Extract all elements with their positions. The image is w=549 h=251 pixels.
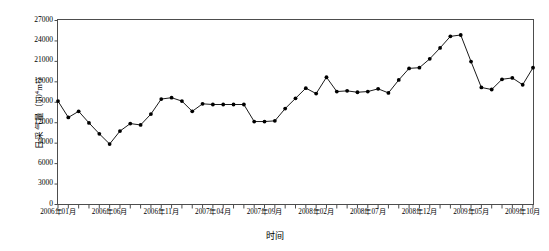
y-axis-tick-label: 18000: [19, 77, 53, 85]
data-point-marker: [407, 66, 411, 70]
data-point-marker: [345, 89, 349, 93]
data-point-marker: [500, 77, 504, 81]
y-axis-tick-label: 12000: [19, 118, 53, 126]
x-axis-tick-labels: 2006年01月2006年06月2006年11月2007年04月2007年09月…: [0, 208, 549, 224]
y-axis-tick-label: 21000: [19, 56, 53, 64]
data-point-marker: [149, 112, 153, 116]
data-point-marker: [397, 78, 401, 82]
data-point-marker: [479, 86, 483, 90]
y-axis-tick-label: 27000: [19, 16, 53, 24]
data-point-marker: [56, 99, 60, 103]
data-point-marker: [263, 120, 267, 124]
plot-frame: [58, 20, 534, 205]
data-point-marker: [180, 99, 184, 103]
data-point-marker: [139, 123, 143, 127]
data-point-marker: [128, 122, 132, 126]
data-point-marker: [438, 46, 442, 50]
x-axis-tick-label: 2009年10月: [488, 208, 549, 217]
data-point-marker: [418, 66, 422, 70]
data-point-marker: [325, 75, 329, 79]
data-point-marker: [87, 121, 91, 125]
y-axis-tick-label: 3000: [19, 179, 53, 187]
x-axis-title: 时间: [0, 229, 549, 242]
data-point-marker: [531, 66, 535, 70]
y-axis-tick-label: 6000: [19, 159, 53, 167]
data-point-marker: [335, 90, 339, 94]
chart-figure: 日采气量（104m³） 0300060009000120001500018000…: [0, 0, 549, 251]
data-point-marker: [428, 57, 432, 61]
y-axis-tick-label: 15000: [19, 97, 53, 105]
data-point-marker: [459, 33, 463, 37]
data-point-marker: [97, 132, 101, 136]
data-point-marker: [232, 103, 236, 107]
data-point-marker: [66, 116, 70, 120]
data-point-marker: [273, 119, 277, 123]
data-point-marker: [118, 129, 122, 133]
data-point-marker: [304, 86, 308, 90]
data-point-marker: [366, 90, 370, 94]
data-point-marker: [159, 97, 163, 101]
data-point-marker: [294, 96, 298, 100]
data-point-marker: [469, 60, 473, 64]
data-point-marker: [221, 103, 225, 107]
data-point-marker: [77, 109, 81, 113]
data-point-marker: [521, 83, 525, 87]
data-point-marker: [108, 142, 112, 146]
data-point-marker: [356, 90, 360, 94]
y-axis-tick-label: 0: [19, 200, 53, 208]
data-point-marker: [211, 103, 215, 107]
y-axis-tick-label: 24000: [19, 36, 53, 44]
data-point-marker: [190, 109, 194, 113]
data-point-marker: [252, 120, 256, 124]
data-point-marker: [170, 96, 174, 100]
y-axis-tick-label: 9000: [19, 138, 53, 146]
data-point-marker: [283, 107, 287, 111]
data-point-marker: [387, 91, 391, 95]
data-point-marker: [201, 102, 205, 106]
data-point-marker: [448, 34, 452, 38]
data-point-marker: [314, 92, 318, 96]
data-point-marker: [376, 87, 380, 91]
data-point-marker: [510, 76, 514, 80]
data-point-marker: [242, 103, 246, 107]
data-point-marker: [490, 88, 494, 92]
